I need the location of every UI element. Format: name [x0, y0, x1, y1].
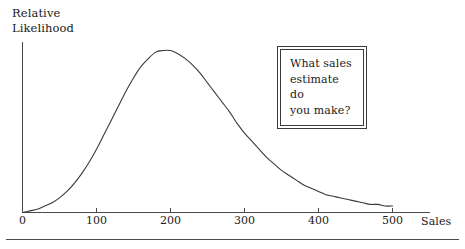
- axes: [23, 42, 431, 213]
- x-tick-label-400: 400: [308, 214, 329, 227]
- x-tick-label-0: 0: [19, 214, 26, 227]
- x-tick-label-500: 500: [382, 214, 403, 227]
- x-axis-ticks: [23, 208, 393, 213]
- likelihood-distribution-figure: Relative Likelihood Sales 01002003004005…: [0, 0, 465, 249]
- plot-area: [0, 0, 465, 249]
- question-callout-text: What sales estimate do you make?: [290, 56, 355, 118]
- x-tick-label-100: 100: [86, 214, 107, 227]
- bottom-rule: [6, 239, 459, 240]
- x-tick-label-300: 300: [234, 214, 255, 227]
- question-callout-inner-border: What sales estimate do you make?: [280, 49, 364, 126]
- x-tick-label-200: 200: [160, 214, 181, 227]
- x-axis-title: Sales: [421, 214, 451, 229]
- y-axis-title: Relative Likelihood: [12, 6, 74, 36]
- question-callout-box: What sales estimate do you make?: [277, 46, 367, 129]
